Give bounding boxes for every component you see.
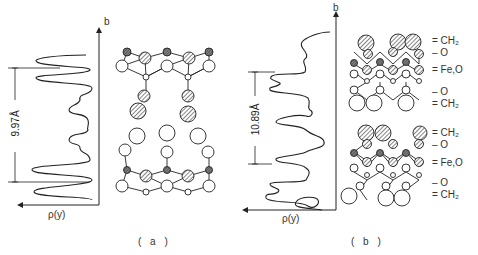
- legend-upper-o-bottom: – O: [432, 86, 448, 97]
- panel-a-structure: [116, 48, 215, 195]
- panel-a-caption: ( a ): [138, 236, 171, 247]
- legend-upper-ch2-top: = CH₂: [432, 35, 459, 46]
- panel-b-caption: ( b ): [351, 236, 384, 247]
- panel-b-axis-rho-label: ρ(y): [282, 213, 299, 224]
- figure-canvas: [0, 0, 478, 255]
- panel-b-density-curve: [266, 32, 330, 210]
- panel-b: [245, 14, 427, 210]
- legend-lower-feo: = Fe,O: [432, 157, 463, 168]
- legend-lower-o-top: – O: [432, 139, 448, 150]
- panel-b-structure-upper: [349, 34, 424, 111]
- legend-upper-o-top: – O: [432, 47, 448, 58]
- panel-b-structure-lower: [341, 125, 427, 206]
- legend-lower-ch2-bottom: = CH₂: [432, 189, 459, 200]
- panel-b-axis-b-label: b: [333, 2, 339, 13]
- panel-b-dimension-label: 10.89Å: [250, 93, 261, 147]
- legend-upper-ch2-bottom: = CH₂: [432, 98, 459, 109]
- panel-a-density-curve: [32, 55, 92, 200]
- panel-a-axis-b-label: b: [104, 16, 110, 27]
- legend-upper-feo: = Fe,O: [432, 64, 463, 75]
- legend-lower-o-bottom: – O: [432, 177, 448, 188]
- panel-a-dimension-label: 9.97Å: [10, 99, 21, 149]
- panel-a: [8, 30, 215, 205]
- legend-lower-ch2-top: = CH₂: [432, 127, 459, 138]
- panel-a-axis-rho-label: ρ(y): [48, 209, 65, 220]
